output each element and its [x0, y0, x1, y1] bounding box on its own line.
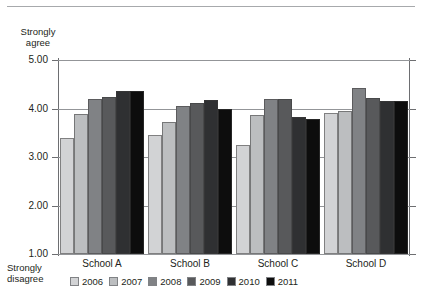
- legend-label: 2009: [199, 276, 220, 287]
- bar: [338, 111, 352, 254]
- bar: [74, 114, 88, 254]
- right-axis-tick: [410, 206, 416, 207]
- bar: [176, 106, 190, 254]
- y-axis-tick: [52, 109, 58, 110]
- bar: [204, 100, 218, 254]
- y-axis-tick: [52, 60, 58, 61]
- bar-chart-figure: Strongly agree Strongly disagree School …: [0, 0, 422, 300]
- bar: [88, 99, 102, 254]
- legend-label: 2006: [82, 276, 103, 287]
- y-axis-top-caption-line2: agree: [12, 37, 64, 48]
- legend-item[interactable]: 2009: [187, 276, 220, 287]
- legend-swatch-icon: [266, 277, 275, 286]
- y-axis-top-caption-line1: Strongly: [21, 26, 56, 37]
- bar: [116, 91, 130, 254]
- bar: [102, 97, 116, 254]
- legend-swatch-icon: [187, 277, 196, 286]
- legend-item[interactable]: 2008: [148, 276, 181, 287]
- y-axis-bottom-caption-line2: disagree: [7, 273, 65, 284]
- y-axis-tick-label: 2.00: [14, 200, 48, 211]
- y-axis-tick-label: 3.00: [14, 151, 48, 162]
- legend-swatch-icon: [227, 277, 236, 286]
- bar: [190, 103, 204, 254]
- bar-group: School C: [236, 60, 320, 254]
- legend-item[interactable]: 2010: [227, 276, 260, 287]
- bar-group: School D: [324, 60, 408, 254]
- bar-group: School B: [148, 60, 232, 254]
- bar: [324, 113, 338, 254]
- y-axis-tick-label: 1.00: [14, 248, 48, 259]
- y-axis-tick: [52, 254, 58, 255]
- bar: [278, 99, 292, 254]
- bar: [380, 101, 394, 254]
- right-axis-tick: [410, 157, 416, 158]
- legend-item[interactable]: 2007: [109, 276, 142, 287]
- bar: [60, 138, 74, 254]
- bar: [306, 119, 320, 254]
- right-axis-tick: [410, 109, 416, 110]
- bar: [218, 109, 232, 255]
- bar: [264, 99, 278, 254]
- bar: [366, 98, 380, 254]
- legend-swatch-icon: [70, 277, 79, 286]
- y-axis-tick: [52, 206, 58, 207]
- bar: [130, 91, 144, 254]
- legend-item[interactable]: 2006: [70, 276, 103, 287]
- top-divider: [7, 6, 415, 7]
- bar: [162, 122, 176, 254]
- bar: [394, 101, 408, 254]
- bar: [236, 145, 250, 254]
- right-axis-tick: [410, 254, 416, 255]
- bar: [250, 115, 264, 254]
- y-axis-tick-label: 5.00: [14, 54, 48, 65]
- gridline: [58, 254, 410, 255]
- legend-swatch-icon: [109, 277, 118, 286]
- legend-label: 2011: [278, 276, 298, 287]
- y-axis-tick-label: 4.00: [14, 103, 48, 114]
- x-axis-group-label: School D: [306, 258, 422, 269]
- plot-area: School ASchool BSchool CSchool D: [58, 60, 410, 254]
- legend-label: 2008: [160, 276, 181, 287]
- bar: [352, 88, 366, 254]
- bar: [148, 135, 162, 254]
- bar-group: School A: [60, 60, 144, 254]
- y-axis-tick: [52, 157, 58, 158]
- legend-item[interactable]: 2011: [266, 276, 298, 287]
- bar: [292, 117, 306, 254]
- legend-label: 2010: [239, 276, 260, 287]
- y-axis-top-caption: Strongly agree: [12, 26, 64, 48]
- legend-label: 2007: [121, 276, 142, 287]
- chart-legend: 200620072008200920102011: [70, 276, 298, 287]
- right-axis-tick: [410, 60, 416, 61]
- legend-swatch-icon: [148, 277, 157, 286]
